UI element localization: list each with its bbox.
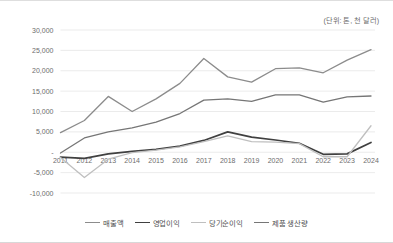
- x-axis-tick-label: 2014: [124, 157, 140, 164]
- x-axis-tick-label: 2017: [196, 157, 212, 164]
- y-axis-tick-label: -5,000: [34, 169, 54, 176]
- y-axis-tick-label: -10,000: [30, 190, 54, 197]
- legend-item-label: 영업이익: [153, 217, 180, 228]
- legend-item-label: 제품 생산량: [272, 217, 308, 228]
- legend-item-label: 당기순이익: [209, 217, 243, 228]
- y-axis-tick-label: 15,000: [32, 88, 54, 95]
- x-axis-tick-label: 2019: [244, 157, 260, 164]
- x-axis-tick-label: 2016: [172, 157, 188, 164]
- legend-line-icon: [85, 222, 100, 223]
- legend-line-icon: [135, 222, 150, 223]
- x-axis-tick-label: 2018: [220, 157, 236, 164]
- x-axis-tick-label: 2023: [339, 157, 355, 164]
- series-line: [61, 95, 372, 153]
- y-axis-tick-label: 10,000: [32, 108, 54, 115]
- x-axis-tick-label: 2024: [363, 157, 379, 164]
- plot-area: 30,00025,00020,00015,00010,0005,000--5,0…: [0, 1, 393, 243]
- y-axis-tick-label: 25,000: [32, 47, 54, 54]
- legend-line-icon: [191, 222, 206, 223]
- legend-item[interactable]: 제품 생산량: [254, 217, 308, 228]
- legend-item-label: 매출액: [103, 217, 123, 228]
- legend-item[interactable]: 영업이익: [135, 217, 180, 228]
- x-axis-tick-label: 2022: [315, 157, 331, 164]
- y-axis-tick-labels: 30,00025,00020,00015,00010,0005,000--5,0…: [30, 27, 54, 197]
- x-axis-tick-label: 2020: [268, 157, 284, 164]
- legend-item[interactable]: 매출액: [85, 217, 123, 228]
- y-axis-tick-label: 30,000: [32, 27, 54, 34]
- x-axis-tick-label: 2021: [292, 157, 308, 164]
- series-line: [61, 126, 372, 178]
- y-axis-tick-label: -: [51, 149, 54, 156]
- y-axis-tick-label: 20,000: [32, 67, 54, 74]
- legend-item[interactable]: 당기순이익: [191, 217, 243, 228]
- legend-line-icon: [254, 222, 269, 223]
- series-line: [61, 132, 372, 158]
- y-axis-tick-label: 5,000: [36, 128, 54, 135]
- chart-legend: 매출액영업이익당기순이익제품 생산량: [0, 217, 393, 228]
- chart-card: (단위: 톤, 천 달러) 30,00025,00020,00015,00010…: [0, 0, 393, 243]
- x-axis-tick-labels: 2011201220132014201520162017201820192020…: [53, 157, 379, 164]
- gridlines-group: [61, 30, 376, 193]
- line-chart-svg: 30,00025,00020,00015,00010,0005,000--5,0…: [0, 1, 393, 243]
- x-axis-tick-label: 2015: [148, 157, 164, 164]
